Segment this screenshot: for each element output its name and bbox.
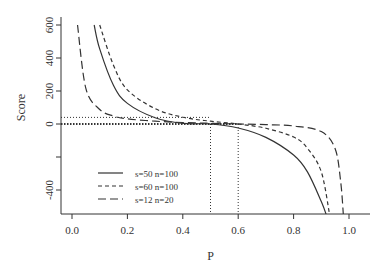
- legend-label-2: s=60 n=100: [135, 182, 178, 192]
- plot-area: [61, 25, 343, 216]
- x-tick-label: 0.4: [176, 224, 190, 236]
- y-tick-label: 0: [43, 121, 55, 127]
- x-axis-label: P: [207, 249, 214, 263]
- score-vs-p-chart: 0.00.20.40.60.81.0-4000200400600PScore s…: [0, 0, 379, 267]
- y-tick-label: 400: [43, 49, 55, 66]
- x-tick-label: 0.0: [65, 224, 79, 236]
- legend: s=50 n=100s=60 n=100s=12 n=20: [98, 169, 178, 205]
- y-axis-label: Score: [14, 94, 28, 121]
- x-tick-label: 0.6: [231, 224, 245, 236]
- legend-label-3: s=12 n=20: [135, 195, 174, 205]
- y-tick-label: 200: [43, 82, 55, 99]
- x-tick-label: 0.8: [287, 224, 301, 236]
- axes: 0.00.20.40.60.81.0-4000200400600PScore: [14, 16, 370, 263]
- y-tick-label: -400: [43, 179, 55, 200]
- x-tick-label: 1.0: [342, 224, 356, 236]
- y-tick-label: 600: [43, 16, 55, 33]
- legend-label-1: s=50 n=100: [135, 169, 178, 179]
- x-tick-label: 0.2: [121, 224, 135, 236]
